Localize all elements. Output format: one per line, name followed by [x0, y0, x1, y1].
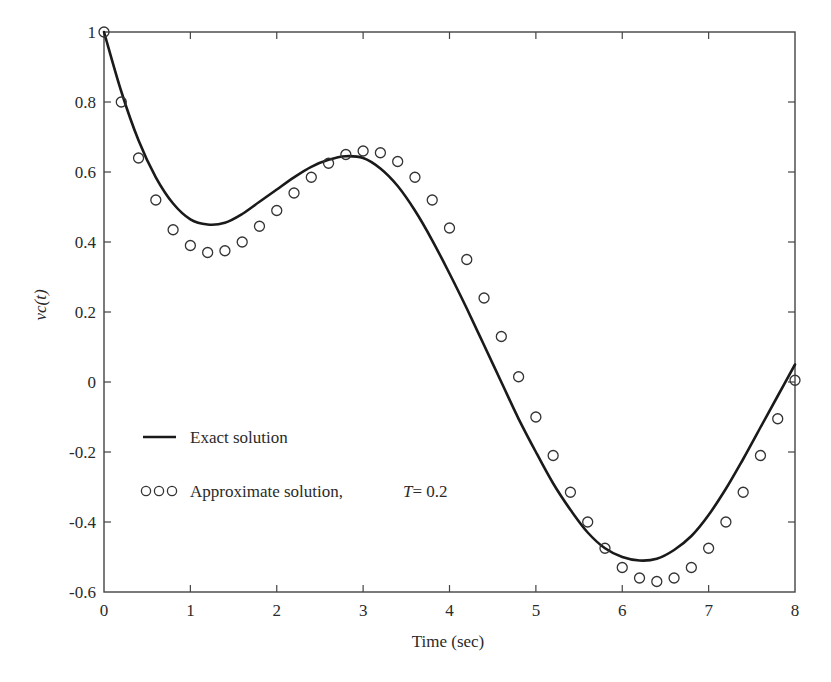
approx-data-point [635, 573, 645, 583]
approx-data-point [445, 223, 455, 233]
y-tick-label: 0.8 [75, 93, 96, 112]
approx-data-point [306, 172, 316, 182]
approx-data-point [565, 487, 575, 497]
approx-data-point [220, 246, 230, 256]
approx-data-point [237, 237, 247, 247]
approx-data-point [393, 157, 403, 167]
approx-data-point [773, 414, 783, 424]
approx-data-point [617, 563, 627, 573]
approx-data-point [410, 172, 420, 182]
approx-data-point [375, 148, 385, 158]
y-axis: 10.80.60.40.20-0.2-0.4-0.6 [69, 23, 795, 602]
legend-approx-param: T= 0.2 [403, 482, 448, 501]
y-tick-label: 0 [88, 373, 97, 392]
y-tick-label: -0.2 [69, 443, 96, 462]
approx-data-point [272, 206, 282, 216]
y-tick-label: 0.4 [75, 233, 97, 252]
y-tick-label: 0.6 [75, 163, 96, 182]
approx-data-point [738, 487, 748, 497]
x-axis-label: Time (sec) [412, 632, 485, 651]
approx-data-point [427, 195, 437, 205]
approx-data-point [185, 241, 195, 251]
plot-border [104, 32, 795, 592]
y-tick-label: -0.6 [69, 583, 96, 602]
x-tick-label: 4 [445, 601, 454, 620]
y-tick-label: -0.4 [69, 513, 96, 532]
x-tick-label: 2 [273, 601, 282, 620]
legend-approx-swatch [141, 486, 176, 495]
legend-exact-label: Exact solution [190, 428, 288, 447]
approx-data-point [289, 188, 299, 198]
approx-data-point [341, 150, 351, 160]
x-tick-label: 0 [100, 601, 109, 620]
approx-data-point [583, 517, 593, 527]
legend-approx-label: Approximate solution, [190, 482, 343, 501]
approx-data-point [652, 577, 662, 587]
approx-data-point [548, 451, 558, 461]
x-tick-label: 8 [791, 601, 800, 620]
approx-data-point [514, 372, 524, 382]
legend: Exact solution Approximate solution, T= … [141, 428, 447, 501]
x-tick-label: 6 [618, 601, 627, 620]
approx-data-point [203, 248, 213, 258]
y-tick-label: 0.2 [75, 303, 96, 322]
x-tick-label: 5 [532, 601, 541, 620]
approx-data-point [358, 146, 368, 156]
approx-data-point [151, 195, 161, 205]
approximate-solution-markers [99, 27, 800, 587]
approx-data-point [721, 517, 731, 527]
y-tick-label: 1 [88, 23, 97, 42]
plot-frame [104, 32, 795, 592]
approx-data-point [669, 573, 679, 583]
x-tick-label: 3 [359, 601, 368, 620]
approx-data-point [462, 255, 472, 265]
approx-data-point [531, 412, 541, 422]
approx-data-point [168, 225, 178, 235]
approx-data-point [686, 563, 696, 573]
approx-data-point [479, 293, 489, 303]
approx-data-point [704, 543, 714, 553]
x-tick-label: 7 [704, 601, 713, 620]
approx-data-point [134, 153, 144, 163]
chart-canvas: 012345678 10.80.60.40.20-0.2-0.4-0.6 Tim… [0, 0, 831, 682]
approx-data-point [496, 332, 506, 342]
legend-approx-param-value: = 0.2 [412, 482, 447, 501]
approx-data-point [755, 451, 765, 461]
approx-data-point [254, 221, 264, 231]
y-axis-label: vc(t) [31, 289, 50, 320]
x-tick-label: 1 [186, 601, 195, 620]
